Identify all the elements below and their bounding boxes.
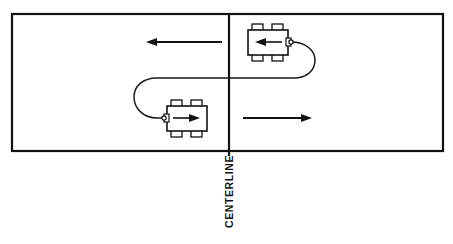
car-lower [162, 100, 207, 137]
car-lower-nose-point [162, 116, 166, 120]
centerline-label: CENTERLINE [223, 155, 235, 228]
lower-lane-flow-arrow [243, 114, 312, 122]
roadway-diagram: CENTERLINE [0, 0, 453, 244]
upper-lane-flow-arrow [146, 38, 222, 46]
roadway-boundary [12, 14, 443, 151]
car-upper [248, 24, 293, 61]
upper-lane-arrow-head [146, 38, 157, 46]
lower-lane-arrow-head [301, 114, 312, 122]
diagram-root: CENTERLINE [0, 0, 453, 244]
car-upper-nose-point [289, 40, 293, 44]
